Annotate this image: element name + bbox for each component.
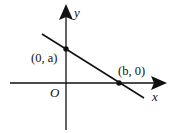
point-y-intercept [63,46,68,51]
coordinate-diagram: y x O (0, a) (b, 0) [0,0,179,133]
point-x-intercept [116,80,121,85]
x-intercept-label: (b, 0) [118,64,145,78]
origin-label: O [50,85,60,100]
y-intercept-label: (0, a) [31,51,57,65]
x-axis-label: x [151,89,158,104]
y-axis-label: y [72,5,80,20]
